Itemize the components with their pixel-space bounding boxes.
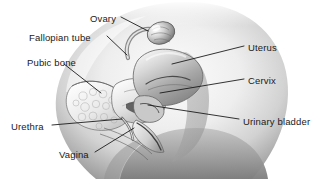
- label-urinary-bladder: Urinary bladder: [243, 117, 310, 127]
- label-vagina: Vagina: [59, 150, 89, 160]
- label-fallopian-tube: Fallopian tube: [29, 33, 91, 43]
- label-urethra: Urethra: [11, 122, 44, 132]
- anatomical-illustration: [0, 0, 326, 179]
- anatomy-diagram: OvaryFallopian tubePubic boneUrethraVagi…: [0, 0, 326, 179]
- label-ovary: Ovary: [90, 14, 116, 24]
- label-cervix: Cervix: [248, 76, 276, 86]
- label-uterus: Uterus: [248, 43, 277, 53]
- label-pubic-bone: Pubic bone: [27, 58, 76, 68]
